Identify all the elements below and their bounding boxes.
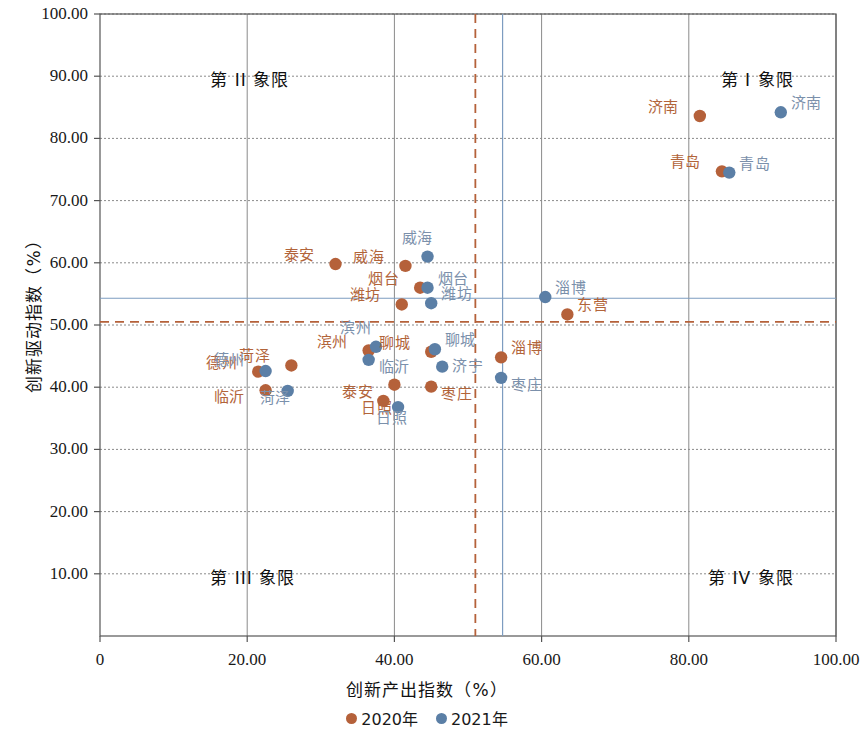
y-tick-label: 100.00 — [0, 4, 88, 24]
point-label: 青岛 — [739, 157, 770, 172]
data-point — [723, 166, 735, 178]
point-label: 东营 — [577, 298, 608, 313]
point-label: 菏泽 — [260, 391, 291, 406]
data-point — [425, 297, 437, 309]
point-label: 济南 — [648, 100, 679, 115]
data-point — [285, 359, 297, 371]
data-point — [329, 258, 341, 270]
point-label: 聊城 — [445, 333, 476, 348]
point-label: 淄博 — [555, 281, 586, 296]
legend-marker-icon — [346, 713, 357, 724]
quadrant-2-label: 第 II 象限 — [210, 66, 370, 91]
quadrant-4-label: 第 IV 象限 — [634, 564, 794, 589]
data-point — [259, 365, 271, 377]
x-tick-label: 60.00 — [482, 650, 602, 670]
y-tick-label: 70.00 — [0, 191, 88, 211]
legend-item[interactable]: 2021年 — [436, 706, 508, 730]
gridlines — [100, 14, 836, 636]
point-label: 威海 — [402, 231, 433, 246]
data-point — [388, 379, 400, 391]
tick-marks — [94, 14, 836, 642]
data-point — [495, 351, 507, 363]
x-tick-label: 40.00 — [334, 650, 454, 670]
x-tick-label: 0 — [40, 650, 160, 670]
point-label: 泰安 — [342, 385, 373, 400]
point-label: 德州 — [214, 353, 245, 368]
data-point — [436, 360, 448, 372]
y-tick-label: 30.00 — [0, 439, 88, 459]
y-tick-label: 80.00 — [0, 128, 88, 148]
data-points — [252, 106, 787, 413]
point-label: 烟台 — [368, 272, 399, 287]
point-label: 聊城 — [379, 336, 410, 351]
point-label: 淄博 — [511, 341, 542, 356]
point-label: 日照 — [376, 411, 407, 426]
data-point — [425, 380, 437, 392]
point-label: 潍坊 — [350, 288, 381, 303]
data-point — [362, 354, 374, 366]
x-axis-title: 创新产出指数（%） — [0, 676, 854, 701]
point-label: 青岛 — [670, 155, 701, 170]
data-point — [775, 106, 787, 118]
x-tick-label: 20.00 — [187, 650, 307, 670]
y-axis-title: 创新驱动指数（%） — [20, 233, 45, 393]
point-label: 滨州 — [340, 321, 371, 336]
point-label: 潍坊 — [441, 287, 472, 302]
y-tick-label: 20.00 — [0, 502, 88, 522]
x-tick-label: 100.00 — [776, 650, 864, 670]
y-tick-label: 10.00 — [0, 564, 88, 584]
data-point — [399, 260, 411, 272]
data-point — [561, 308, 573, 320]
point-label: 临沂 — [214, 390, 245, 405]
legend-label: 2021年 — [451, 706, 508, 730]
x-tick-label: 80.00 — [629, 650, 749, 670]
data-point — [495, 372, 507, 384]
data-point — [694, 110, 706, 122]
point-label: 威海 — [353, 250, 384, 265]
data-point — [396, 298, 408, 310]
quadrant-1-label: 第 I 象限 — [634, 66, 794, 91]
point-label: 临沂 — [379, 360, 410, 375]
legend-item[interactable]: 2020年 — [346, 706, 418, 730]
y-tick-label: 90.00 — [0, 66, 88, 86]
data-point — [421, 250, 433, 262]
point-label: 泰安 — [284, 248, 315, 263]
point-label: 枣庄 — [441, 387, 472, 402]
chart-legend: 2020年2021年 — [0, 706, 854, 730]
data-point — [421, 281, 433, 293]
point-label: 济宁 — [452, 359, 483, 374]
point-label: 枣庄 — [511, 378, 542, 393]
legend-label: 2020年 — [361, 706, 418, 730]
data-point — [429, 343, 441, 355]
data-point — [539, 291, 551, 303]
point-label: 济南 — [791, 96, 822, 111]
quadrant-3-label: 第 III 象限 — [210, 564, 370, 589]
legend-marker-icon — [436, 713, 447, 724]
